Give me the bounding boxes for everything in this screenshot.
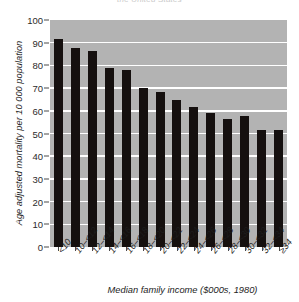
y-tick-mark <box>44 20 49 21</box>
x-tick-mark <box>211 247 212 251</box>
bar <box>122 70 131 247</box>
y-tick-mark <box>44 201 49 202</box>
x-tick-mark <box>143 247 144 251</box>
x-tick-mark <box>75 247 76 251</box>
y-tick-mark <box>44 133 49 134</box>
x-tick-mark <box>245 247 246 251</box>
x-tick-mark <box>228 247 229 251</box>
bar <box>105 68 114 247</box>
x-tick-mark <box>279 247 280 251</box>
x-tick-mark <box>177 247 178 251</box>
x-tick-mark <box>262 247 263 251</box>
bar <box>54 39 63 247</box>
y-axis-title: Age adjusted mortality per 10 000 popula… <box>14 18 24 248</box>
bar <box>88 51 97 247</box>
y-tick-mark <box>44 178 49 179</box>
y-tick-mark <box>44 247 49 248</box>
bar <box>139 88 148 247</box>
y-tick-mark <box>44 156 49 157</box>
x-tick-mark <box>194 247 195 251</box>
y-tick-mark <box>44 88 49 89</box>
x-tick-mark <box>58 247 59 251</box>
bar <box>71 48 80 247</box>
x-tick-mark <box>92 247 93 251</box>
y-tick-mark <box>44 65 49 66</box>
plot-area <box>50 20 287 247</box>
x-axis-title: Median family income ($000s, 1980) <box>70 285 295 295</box>
x-tick-mark <box>109 247 110 251</box>
y-axis: 0102030405060708090100 <box>0 0 50 267</box>
figure: the United States 0102030405060708090100… <box>0 0 299 302</box>
x-tick-mark <box>160 247 161 251</box>
x-tick-mark <box>126 247 127 251</box>
y-tick-mark <box>44 224 49 225</box>
bar <box>156 92 165 247</box>
bar-series <box>50 20 287 247</box>
y-tick-mark <box>44 110 49 111</box>
y-tick-mark <box>44 42 49 43</box>
